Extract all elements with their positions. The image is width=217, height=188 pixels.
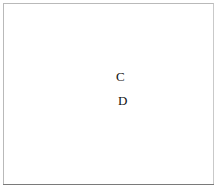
stitch-illustration <box>0 0 217 188</box>
label-d: D <box>118 94 128 107</box>
label-c: C <box>116 70 125 83</box>
needle-eye <box>107 16 110 48</box>
stitch-diagram-figure: C D <box>0 0 217 188</box>
sewing-needle <box>104 9 113 180</box>
figure-bottom-rule <box>3 184 214 185</box>
